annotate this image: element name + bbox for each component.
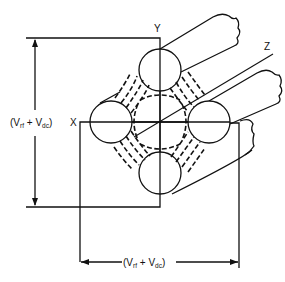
- upper-square-top: [26, 38, 160, 49]
- rod-cross-sections: [90, 49, 230, 194]
- square-frames: [26, 38, 239, 268]
- arrow-down-icon: [32, 198, 38, 206]
- lower-square-left: [80, 122, 90, 262]
- x-axis-label: X: [70, 117, 77, 128]
- quadrupole-diagram: X Y Z (Vrf + Vdc) (Vrf + Vdc): [0, 0, 285, 282]
- vertical-dimension-label: (Vrf + Vdc): [10, 117, 52, 129]
- bottom-rod-body: [172, 150, 252, 194]
- z-axis-label: Z: [264, 41, 270, 52]
- y-axis-label: Y: [154, 23, 161, 34]
- arrow-right-icon: [230, 259, 238, 265]
- upper-square-bottom: [26, 194, 160, 207]
- bottom-rod-end: [240, 120, 254, 155]
- horizontal-dimension-label: (Vrf + Vdc): [123, 257, 165, 269]
- lower-square-top-right: [230, 123, 239, 268]
- arrow-up-icon: [32, 39, 38, 47]
- arrow-left-icon: [81, 259, 89, 265]
